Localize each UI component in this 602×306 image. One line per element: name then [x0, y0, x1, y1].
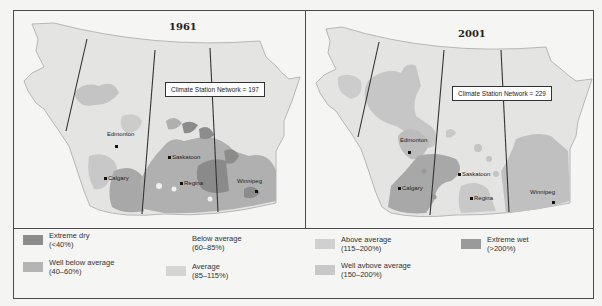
- city-regina: Regina: [470, 195, 493, 201]
- city-dot: [408, 151, 411, 154]
- city-dot: [104, 177, 107, 180]
- map-title: 2001: [458, 28, 486, 39]
- city-dot: [168, 156, 171, 159]
- prairie-map-1961: [14, 11, 305, 228]
- city-edmonton: Edmonton: [400, 137, 427, 143]
- city-winnipeg: Winnipeg: [237, 178, 262, 184]
- legend-swatch: [315, 239, 335, 249]
- city-calgary: Calgary: [104, 175, 129, 181]
- city-saskatoon: Saskatoon: [458, 171, 490, 177]
- map-title: 1961: [169, 21, 197, 32]
- legend-swatch: [166, 266, 186, 276]
- map-2001: 2001 Climate Station Network = 229 Edmon…: [306, 11, 594, 228]
- legend-extreme-dry: Extreme dry(<40%): [23, 231, 89, 249]
- legend-swatch: [23, 262, 43, 272]
- city-winnipeg: Winnipeg: [530, 189, 555, 195]
- legend-swatch: [461, 239, 481, 249]
- station-network-label: Climate Station Network = 197: [165, 82, 265, 97]
- prairie-map-2001: [306, 11, 594, 228]
- legend-well-above-average: Well avbove average(150–200%): [315, 261, 411, 279]
- legend-extreme-wet: Extreme wet(>200%): [461, 235, 529, 253]
- map-1961: 1961 Climate Station Network = 197 Edmon…: [14, 11, 305, 228]
- legend-below-average: Below average(60–85%): [166, 234, 242, 252]
- city-dot: [552, 201, 555, 204]
- legend-swatch: [166, 238, 186, 248]
- city-regina: Regina: [180, 180, 203, 186]
- legend-divider: [13, 228, 594, 229]
- legend-well-below-average: Well below average(40–60%): [23, 258, 114, 276]
- city-saskatoon: Saskatoon: [168, 154, 200, 160]
- city-dot: [115, 145, 118, 148]
- legend-above-average: Above average(115–200%): [315, 235, 391, 253]
- city-edmonton: Edmonton: [107, 131, 134, 137]
- city-dot: [398, 187, 401, 190]
- legend-swatch: [23, 235, 43, 245]
- city-dot: [180, 182, 183, 185]
- city-calgary: Calgary: [398, 185, 423, 191]
- city-dot: [255, 190, 258, 193]
- city-dot: [458, 173, 461, 176]
- legend-average: Average(85–115%): [166, 262, 228, 280]
- city-dot: [470, 197, 473, 200]
- station-network-label: Climate Station Network = 229: [452, 86, 552, 101]
- legend-swatch: [315, 265, 335, 275]
